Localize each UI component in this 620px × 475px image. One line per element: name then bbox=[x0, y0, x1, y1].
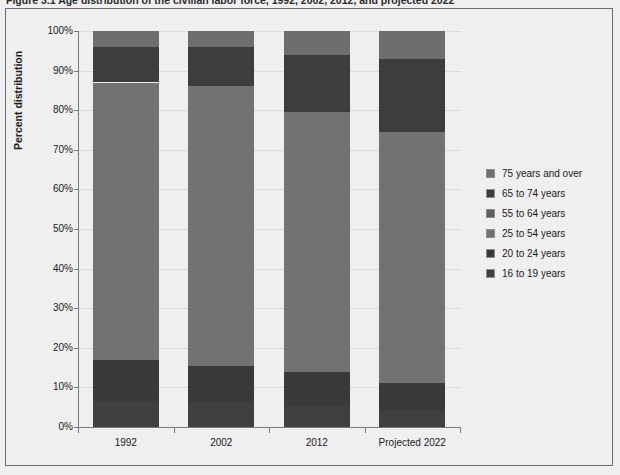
bar-segment bbox=[188, 31, 254, 47]
legend-swatch-icon bbox=[486, 269, 495, 278]
legend-label: 75 years and over bbox=[502, 165, 582, 182]
legend-item[interactable]: 16 to 19 years bbox=[486, 265, 611, 285]
legend-item[interactable]: 25 to 54 years bbox=[486, 225, 611, 245]
chart-legend: 75 years and over65 to 74 years55 to 64 … bbox=[486, 165, 611, 285]
y-axis-label: 100% bbox=[30, 26, 73, 36]
bar-segment bbox=[379, 59, 445, 132]
figure-caption: Figure 3.1 Age distribution of the civil… bbox=[6, 0, 606, 6]
bar-segment bbox=[379, 383, 445, 411]
chart-figure: Figure 3.1 Age distribution of the civil… bbox=[0, 0, 620, 475]
bar-segment bbox=[188, 366, 254, 404]
bar-2012[interactable] bbox=[284, 31, 350, 427]
legend-label: 65 to 74 years bbox=[502, 185, 565, 202]
x-axis-label: 2012 bbox=[269, 437, 365, 449]
y-axis-label: 10% bbox=[30, 382, 73, 392]
y-axis-label: 50% bbox=[30, 224, 73, 234]
y-axis-title: Percent distribution bbox=[12, 134, 24, 150]
x-axis-label: 2002 bbox=[174, 437, 270, 449]
bar-segment bbox=[188, 403, 254, 427]
y-axis-label: 80% bbox=[30, 105, 73, 115]
legend-swatch-icon bbox=[486, 229, 495, 238]
bar-1992[interactable] bbox=[93, 31, 159, 427]
legend-label: 25 to 54 years bbox=[502, 225, 565, 242]
bar-segment bbox=[284, 407, 350, 427]
x-axis-tick bbox=[460, 427, 461, 433]
bar-segment bbox=[379, 411, 445, 427]
bar-segment bbox=[93, 47, 159, 83]
bar-segment bbox=[284, 31, 350, 55]
legend-item[interactable]: 75 years and over bbox=[486, 165, 611, 185]
bars-group bbox=[78, 31, 460, 427]
y-axis-label: 0% bbox=[30, 422, 73, 432]
y-axis-label: 60% bbox=[30, 184, 73, 194]
y-axis-label: 70% bbox=[30, 145, 73, 155]
legend-label: 55 to 64 years bbox=[502, 205, 565, 222]
y-axis-labels: 100%90%80%70%60%50%40%30%20%10%0% bbox=[30, 31, 73, 427]
legend-label: 16 to 19 years bbox=[502, 265, 565, 282]
x-axis-label: 1992 bbox=[78, 437, 174, 449]
bar-segment bbox=[93, 401, 159, 427]
bar-segment bbox=[188, 47, 254, 87]
bar-segment bbox=[284, 112, 350, 371]
bar-segment bbox=[379, 31, 445, 59]
x-axis-tick bbox=[365, 427, 366, 433]
bar-segment bbox=[93, 83, 159, 360]
legend-item[interactable]: 65 to 74 years bbox=[486, 185, 611, 205]
x-axis-tick bbox=[269, 427, 270, 433]
y-axis-label: 20% bbox=[30, 343, 73, 353]
bar-segment bbox=[284, 55, 350, 112]
bar-segment bbox=[93, 360, 159, 402]
legend-item[interactable]: 55 to 64 years bbox=[486, 205, 611, 225]
legend-swatch-icon bbox=[486, 209, 495, 218]
x-axis-tick bbox=[78, 427, 79, 433]
bar-segment bbox=[188, 86, 254, 365]
y-axis-label: 90% bbox=[30, 66, 73, 76]
legend-label: 20 to 24 years bbox=[502, 245, 565, 262]
legend-swatch-icon bbox=[486, 249, 495, 258]
x-axis-label: Projected 2022 bbox=[365, 437, 461, 449]
bar-segment bbox=[93, 31, 159, 47]
legend-item[interactable]: 20 to 24 years bbox=[486, 245, 611, 265]
bar-2002[interactable] bbox=[188, 31, 254, 427]
bar-segment bbox=[284, 372, 350, 408]
bar-projected-2022[interactable] bbox=[379, 31, 445, 427]
bar-segment bbox=[379, 132, 445, 383]
y-axis-label: 40% bbox=[30, 264, 73, 274]
legend-swatch-icon bbox=[486, 189, 495, 198]
legend-swatch-icon bbox=[486, 169, 495, 178]
x-axis-tick bbox=[174, 427, 175, 433]
y-axis-label: 30% bbox=[30, 303, 73, 313]
